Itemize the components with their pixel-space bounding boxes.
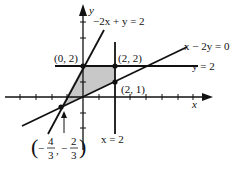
line-x-minus-2y-eq-0	[22, 47, 187, 126]
minus-sign-x: −	[38, 142, 44, 154]
comma: ,	[56, 144, 59, 156]
close-paren: )	[79, 134, 86, 159]
x-numerator: 4	[48, 135, 54, 147]
label-x-minus-2y-eq-0: x − 2y = 0	[184, 40, 230, 52]
label-x-eq-2: x = 2	[101, 133, 124, 145]
x-axis-label: x	[191, 98, 197, 110]
label-point-2-1: (2, 1)	[121, 83, 145, 96]
pointer-arrowhead-icon	[61, 111, 67, 118]
label-point-2-2: (2, 2)	[118, 52, 142, 65]
label-point-neg4-3-neg2-3: ( − 4 3 , − 2 3 )	[31, 134, 86, 161]
x-axis-arrow-icon	[202, 93, 213, 101]
shaded-feasible-region	[61, 66, 115, 107]
minus-sign-y: −	[61, 142, 67, 154]
point-neg4-3-neg2-3	[58, 104, 63, 109]
point-2-2	[112, 63, 117, 68]
x-denominator: 3	[48, 149, 54, 161]
label-neg2x-plus-y-eq-2: −2x + y = 2	[93, 15, 145, 27]
y-denominator: 3	[71, 149, 77, 161]
y-axis-arrow-icon	[79, 4, 87, 16]
point-0-2	[80, 63, 85, 68]
y-numerator: 2	[71, 135, 77, 147]
point-2-1	[112, 79, 117, 84]
feasible-region-diagram: y x −2x + y = 2 x − 2y = 0 y = 2 x = 2 (…	[0, 0, 242, 175]
label-y-eq-2: y = 2	[192, 60, 215, 72]
label-point-0-2: (0, 2)	[54, 52, 78, 65]
